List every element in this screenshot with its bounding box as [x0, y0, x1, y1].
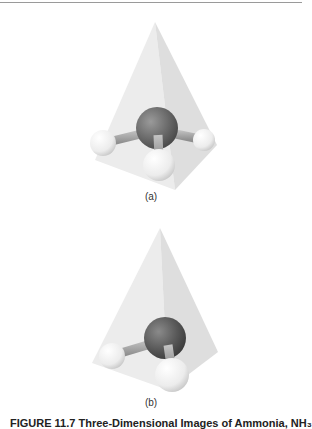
hydrogen-atom-bottom-b [155, 358, 189, 392]
figure-panel-b: (b) [0, 0, 302, 415]
hydrogen-atom-left-b [99, 343, 125, 369]
figure-caption: FIGURE 11.7 Three-Dimensional Images of … [10, 417, 312, 429]
ammonia-model-b [0, 0, 302, 415]
panel-label-b: (b) [0, 397, 302, 408]
